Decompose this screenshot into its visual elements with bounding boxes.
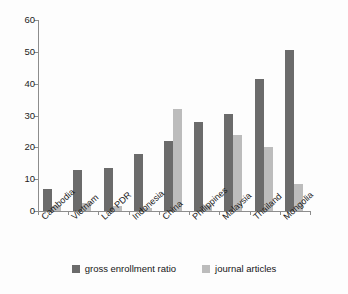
y-axis-tick-label: 10 [9, 174, 35, 184]
legend-label: gross enrollment ratio [85, 264, 176, 274]
y-axis-tick-label: 30 [9, 111, 35, 121]
y-axis-tick-label: 20 [9, 142, 35, 152]
bar-china-journal-articles [173, 109, 182, 211]
legend-label: journal articles [215, 264, 276, 274]
y-axis-tick-label: 0 [9, 206, 35, 216]
bar-philippines-gross-enrollment-ratio [194, 122, 203, 211]
dark-gray-swatch [72, 265, 80, 273]
bar-chart-figure: 0102030405060 CambodiaVietnamLao PDRIndo… [0, 0, 348, 294]
y-axis-tick-label: 40 [9, 79, 35, 89]
y-axis-tick-label: 60 [9, 15, 35, 25]
bar-thailand-gross-enrollment-ratio [255, 79, 264, 211]
bar-indonesia-gross-enrollment-ratio [134, 154, 143, 211]
x-axis-tick [310, 211, 311, 215]
legend-item-journal-articles[interactable]: journal articles [202, 264, 276, 274]
bar-mongolia-gross-enrollment-ratio [285, 50, 294, 211]
x-axis-tick [250, 211, 251, 215]
y-axis-tick-label: 50 [9, 47, 35, 57]
legend-item-gross-enrollment-ratio[interactable]: gross enrollment ratio [72, 264, 176, 274]
bar-malaysia-gross-enrollment-ratio [224, 114, 233, 211]
light-gray-swatch [202, 265, 210, 273]
chart-legend: gross enrollment ratiojournal articles [0, 264, 348, 274]
bar-china-gross-enrollment-ratio [164, 141, 173, 211]
